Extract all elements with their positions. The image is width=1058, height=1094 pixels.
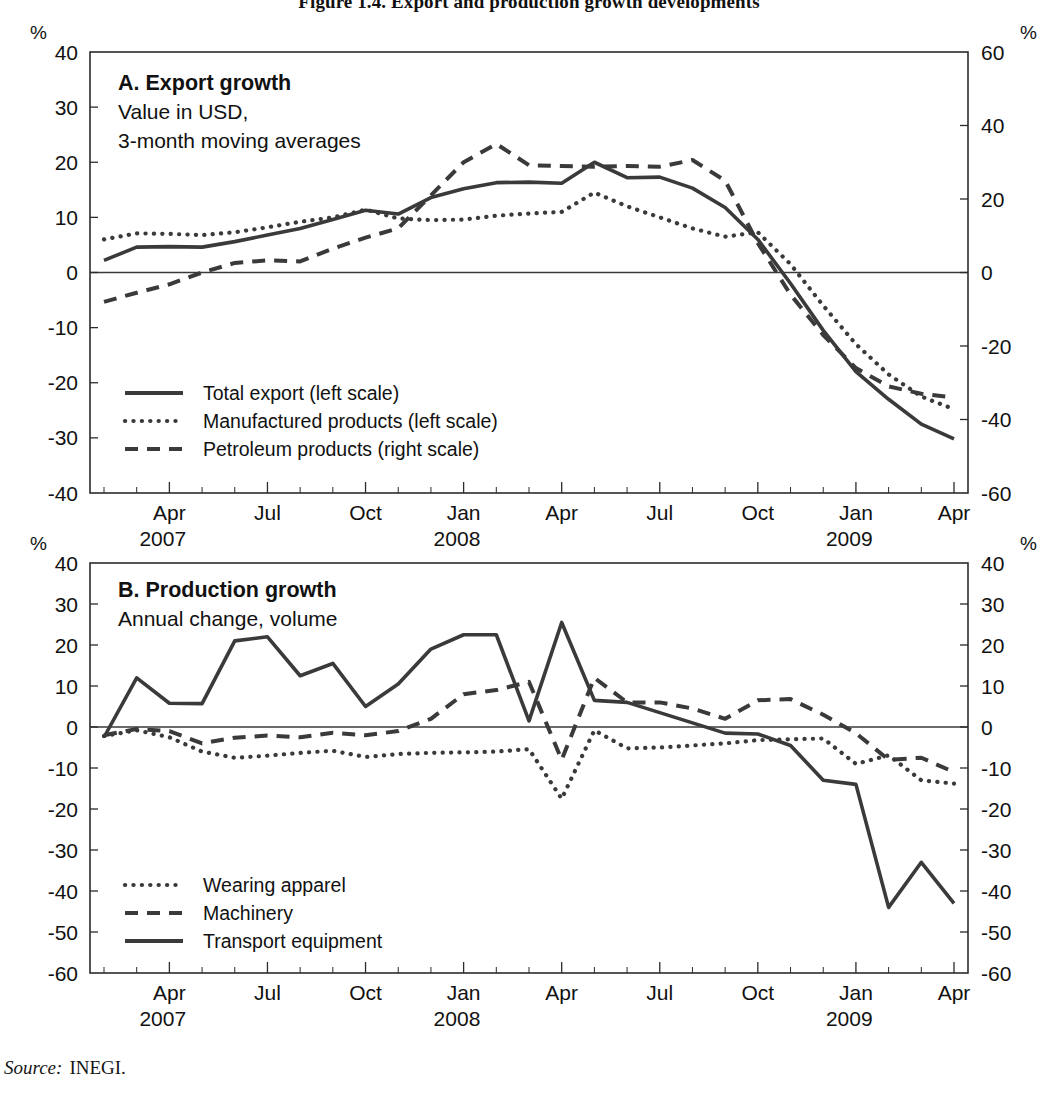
- legend-label-2: Machinery: [203, 902, 293, 924]
- y-tick-label-right: 30: [981, 593, 1004, 616]
- y-tick-label-left: -40: [48, 482, 78, 505]
- x-tick-label: Apr: [545, 501, 578, 524]
- y-tick-label-left: -30: [48, 426, 78, 449]
- x-tick-label: Oct: [742, 981, 775, 1004]
- year-label: 2007: [139, 1007, 186, 1030]
- y-tick-label-right: -20: [981, 798, 1011, 821]
- y-tick-label-right: 0: [981, 716, 993, 739]
- x-tick-label: Apr: [545, 981, 578, 1004]
- left-axis-unit: %: [30, 533, 47, 554]
- x-tick-label: Jul: [254, 501, 281, 524]
- y-tick-label-left: 30: [55, 593, 78, 616]
- year-label: 2009: [826, 1007, 873, 1030]
- right-axis-unit: %: [1020, 533, 1037, 554]
- y-tick-label-left: -30: [48, 839, 78, 862]
- y-tick-label-left: 20: [55, 634, 78, 657]
- panel-subtitle: 3-month moving averages: [118, 129, 361, 152]
- y-tick-label-left: 10: [55, 206, 78, 229]
- figure-title: Figure 1.4. Export and production growth…: [0, 0, 1058, 13]
- x-tick-label: Jul: [646, 981, 673, 1004]
- y-tick-label-left: 40: [55, 41, 78, 64]
- y-tick-label-right: -10: [981, 757, 1011, 780]
- y-tick-label-left: -40: [48, 880, 78, 903]
- chart-svg-a: 403020100-10-20-30-406040200-20-40-60%%A…: [0, 18, 1058, 538]
- source-label: Source:: [4, 1057, 62, 1078]
- y-tick-label-right: -50: [981, 921, 1011, 944]
- source-value: INEGI.: [62, 1057, 125, 1078]
- left-axis-unit: %: [30, 22, 47, 43]
- y-tick-label-left: -10: [48, 316, 78, 339]
- y-tick-label-right: -20: [981, 335, 1011, 358]
- legend-label-1: Total export (left scale): [203, 382, 399, 404]
- x-tick-label: Jul: [254, 981, 281, 1004]
- y-tick-label-left: -10: [48, 757, 78, 780]
- y-tick-label-left: 0: [66, 716, 78, 739]
- x-tick-label: Apr: [938, 981, 971, 1004]
- x-tick-label: Oct: [742, 501, 775, 524]
- y-tick-label-right: -60: [981, 962, 1011, 985]
- panel-subtitle: Annual change, volume: [118, 607, 338, 630]
- y-tick-label-left: -20: [48, 371, 78, 394]
- chart-panel-a: 403020100-10-20-30-406040200-20-40-60%%A…: [0, 18, 1058, 538]
- y-tick-label-left: -60: [48, 962, 78, 985]
- legend-label-3: Transport equipment: [203, 930, 383, 952]
- x-tick-label: Apr: [153, 501, 186, 524]
- legend-label-1: Wearing apparel: [203, 874, 346, 896]
- x-tick-label: Oct: [349, 501, 382, 524]
- series-line-2: [104, 678, 954, 772]
- source-note: Source:INEGI.: [4, 1057, 126, 1079]
- x-tick-label: Jan: [447, 501, 481, 524]
- y-tick-label-left: 10: [55, 675, 78, 698]
- y-tick-label-left: -50: [48, 921, 78, 944]
- year-label: 2008: [434, 1007, 481, 1030]
- panel-title: A. Export growth: [118, 71, 291, 95]
- legend-label-2: Manufactured products (left scale): [203, 410, 498, 432]
- series-line-1: [104, 730, 954, 798]
- y-tick-label-right: 10: [981, 675, 1004, 698]
- y-tick-label-left: 0: [66, 261, 78, 284]
- y-tick-label-left: 20: [55, 151, 78, 174]
- series-line-3: [104, 622, 954, 907]
- series-line-2: [104, 193, 954, 410]
- y-tick-label-right: -60: [981, 482, 1011, 505]
- y-tick-label-right: 0: [981, 261, 993, 284]
- y-tick-label-right: 40: [981, 114, 1004, 137]
- y-tick-label-right: -40: [981, 408, 1011, 431]
- y-tick-label-right: 20: [981, 188, 1004, 211]
- y-tick-label-right: -40: [981, 880, 1011, 903]
- x-tick-label: Jan: [839, 981, 873, 1004]
- legend-label-3: Petroleum products (right scale): [203, 438, 479, 460]
- y-tick-label-left: 30: [55, 96, 78, 119]
- y-tick-label-left: 40: [55, 552, 78, 575]
- x-tick-label: Jan: [447, 981, 481, 1004]
- x-tick-label: Apr: [938, 501, 971, 524]
- x-tick-label: Oct: [349, 981, 382, 1004]
- y-tick-label-right: -30: [981, 839, 1011, 862]
- x-tick-label: Jul: [646, 501, 673, 524]
- right-axis-unit: %: [1020, 22, 1037, 43]
- panel-title: B. Production growth: [118, 578, 337, 602]
- y-tick-label-right: 60: [981, 41, 1004, 64]
- chart-svg-b: 403020100-10-20-30-40-50-60403020100-10-…: [0, 530, 1058, 1035]
- chart-panel-b: 403020100-10-20-30-40-50-60403020100-10-…: [0, 530, 1058, 1035]
- y-tick-label-right: 20: [981, 634, 1004, 657]
- x-tick-label: Jan: [839, 501, 873, 524]
- y-tick-label-left: -20: [48, 798, 78, 821]
- panel-subtitle: Value in USD,: [118, 100, 248, 123]
- y-tick-label-right: 40: [981, 552, 1004, 575]
- x-tick-label: Apr: [153, 981, 186, 1004]
